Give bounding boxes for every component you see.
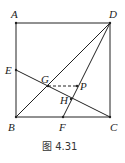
label-h: H xyxy=(59,94,69,106)
label-b: B xyxy=(8,121,15,133)
segment-df xyxy=(63,23,110,117)
label-a: A xyxy=(10,8,18,20)
label-d: D xyxy=(108,8,117,20)
label-c: C xyxy=(110,121,118,133)
label-p: P xyxy=(79,80,87,92)
figure-caption: 图 4.31 xyxy=(42,141,77,152)
label-e: E xyxy=(4,64,12,76)
label-f: F xyxy=(58,121,66,133)
label-g: G xyxy=(41,73,49,85)
geometry-figure: A D E G P H B F C 图 4.31 xyxy=(0,0,125,163)
